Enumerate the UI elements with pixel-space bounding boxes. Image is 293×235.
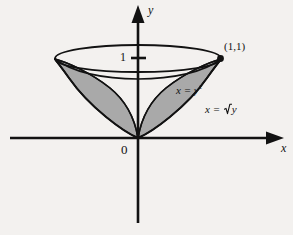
curve-label-inner-base: x = y: [176, 84, 199, 96]
radical-glyph-icon: [224, 103, 232, 115]
curve-label-outer-prefix: x =: [205, 103, 223, 115]
radical-symbol-icon: y: [223, 103, 237, 115]
origin-label: 0: [121, 143, 128, 156]
curve-label-x-equals-sqrt-y: x = y: [205, 103, 237, 115]
x-axis-label: x: [281, 142, 286, 154]
curve-label-inner-exponent: 2: [199, 83, 202, 90]
point-1-1-marker: [217, 55, 224, 62]
y-axis-arrowhead: [132, 5, 145, 23]
point-1-1-label: (1,1): [224, 41, 245, 52]
y-axis-label: y: [148, 4, 153, 16]
figure-canvas: y x 1 0 (1,1) x = y2 x = y: [0, 0, 293, 235]
curve-label-x-equals-y-squared: x = y2: [176, 84, 202, 96]
y-tick-label-one: 1: [120, 51, 126, 63]
solid-of-revolution-drawing: [0, 0, 293, 235]
curve-label-outer-radicand: y: [232, 103, 237, 115]
